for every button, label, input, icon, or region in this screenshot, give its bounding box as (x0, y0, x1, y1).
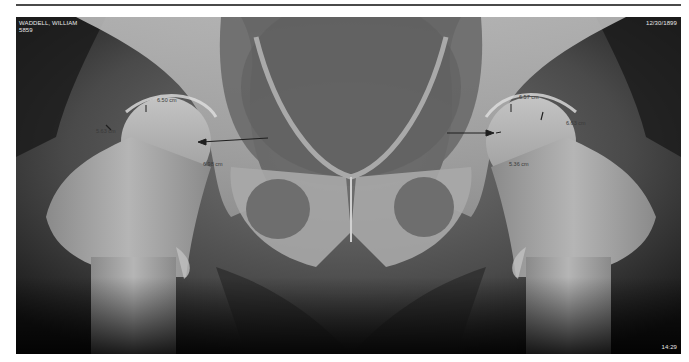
measurement-label-left-hip-1[interactable]: 6.57 cm (519, 94, 539, 100)
study-date: 12/30/1899 (646, 20, 677, 27)
patient-info: WADDELL, WILLIAM 5859 (19, 20, 77, 34)
patient-id: 5859 (19, 27, 77, 34)
measurement-label-right-hip-3[interactable]: 6.98 cm (203, 161, 223, 167)
measurement-label-left-hip-3[interactable]: 5.36 cm (509, 161, 529, 167)
study-time: 14:29 (661, 344, 677, 351)
measurement-label-left-hip-2[interactable]: 6.63 cm (566, 120, 586, 126)
measurement-label-right-hip-1[interactable]: 6.50 cm (157, 97, 177, 103)
xray-image-viewport[interactable]: WADDELL, WILLIAM 5859 12/30/1899 14:29 6… (16, 17, 681, 354)
pelvis-radiograph (16, 17, 681, 354)
measurement-label-right-hip-2[interactable]: 5.63 cm (96, 128, 116, 134)
top-divider-rule (16, 4, 681, 6)
patient-name: WADDELL, WILLIAM (19, 20, 77, 27)
